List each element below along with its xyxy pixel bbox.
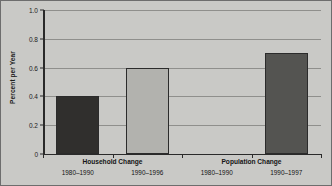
y-axis-title-text: Percent per Year <box>9 51 16 104</box>
y-tick-label: 1.0 <box>29 7 38 14</box>
y-tick-mark <box>40 96 44 97</box>
y-tick-label: 0.8 <box>29 35 38 42</box>
x-axis-group-labels: Household ChangePopulation Change <box>43 158 321 165</box>
y-tick-mark <box>40 38 44 39</box>
bar <box>265 53 308 154</box>
period-label: 1980–1990 <box>43 169 113 176</box>
x-axis-period-labels: 1980–19901990–19961980–19901990–1997 <box>43 169 321 176</box>
y-tick-label: 0.2 <box>29 122 38 129</box>
y-axis-tick-labels: 1.00.80.60.40.20 <box>17 10 41 154</box>
period-label: 1990–1996 <box>113 169 183 176</box>
group-label: Population Change <box>182 158 321 165</box>
period-label: 1980–1990 <box>182 169 252 176</box>
group-label: Household Change <box>43 158 182 165</box>
period-label: 1990–1997 <box>252 169 322 176</box>
bar-slot <box>113 10 183 154</box>
y-tick-mark <box>40 10 44 11</box>
bar-slot <box>252 10 322 154</box>
bar <box>56 96 99 154</box>
bar-slot <box>182 10 252 154</box>
y-tick-label: 0.4 <box>29 93 38 100</box>
chart-figure: Percent per Year 1.00.80.60.40.20 Househ… <box>0 0 332 186</box>
bar-series <box>43 10 321 154</box>
y-tick-label: 0.6 <box>29 64 38 71</box>
y-tick-mark <box>40 67 44 68</box>
plot-area <box>43 10 321 154</box>
x-tick-mark <box>321 154 322 158</box>
bar-slot <box>43 10 113 154</box>
y-tick-mark <box>40 125 44 126</box>
y-tick-label: 0 <box>34 151 38 158</box>
bar <box>126 68 169 154</box>
